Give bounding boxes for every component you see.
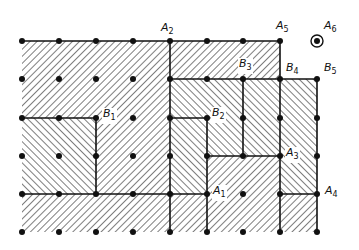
- label-B1: B1: [102, 108, 117, 124]
- lattice-point: [277, 229, 283, 235]
- lattice-point: [204, 115, 210, 121]
- lattice-point: [56, 38, 62, 44]
- lattice-point: [240, 229, 246, 235]
- lattice-point: [130, 76, 136, 82]
- label-A3: A3: [285, 147, 300, 163]
- label-A6: A6: [323, 20, 338, 36]
- lattice-point: [314, 229, 320, 235]
- lattice-point: [56, 76, 62, 82]
- label-B3: B3: [238, 58, 253, 74]
- lattice-point: [130, 153, 136, 159]
- lattice-point: [314, 191, 320, 197]
- lattice-point: [240, 38, 246, 44]
- lattice-point: [56, 115, 62, 121]
- label-A1: A1: [212, 185, 227, 201]
- region-bottom-right: [280, 194, 317, 232]
- lattice-point: [240, 191, 246, 197]
- lattice-point: [240, 115, 246, 121]
- lattice-point: [19, 76, 25, 82]
- lattice-point: [130, 38, 136, 44]
- lattice-point: [314, 115, 320, 121]
- lattice-point: [167, 153, 173, 159]
- lattice-point: [19, 38, 25, 44]
- lattice-diagram: [0, 0, 359, 250]
- lattice-point: [56, 229, 62, 235]
- lattice-point: [167, 38, 173, 44]
- lattice-point: [204, 229, 210, 235]
- label-B2: B2: [211, 107, 226, 123]
- lattice-point: [93, 229, 99, 235]
- label-B4: B4: [285, 62, 300, 78]
- lattice-point: [56, 191, 62, 197]
- region-top-right-B3: [170, 41, 280, 79]
- lattice-point: [240, 76, 246, 82]
- lattice-point: [167, 229, 173, 235]
- lattice-point: [93, 76, 99, 82]
- label-A2: A2: [160, 22, 175, 38]
- lattice-point: [277, 191, 283, 197]
- lattice-point: [277, 153, 283, 159]
- lattice-point: [130, 115, 136, 121]
- lattice-point: [277, 115, 283, 121]
- lattice-point: [204, 191, 210, 197]
- lattice-point: [93, 115, 99, 121]
- lattice-point: [314, 153, 320, 159]
- lattice-point: [277, 38, 283, 44]
- label-A5: A5: [275, 20, 290, 36]
- lattice-point: [93, 191, 99, 197]
- lattice-point: [314, 76, 320, 82]
- lattice-point: [167, 115, 173, 121]
- circled-dot: [314, 38, 320, 44]
- lattice-point: [19, 229, 25, 235]
- label-A4: A4: [324, 185, 339, 201]
- region-right-col-6: [243, 79, 280, 156]
- lattice-point: [19, 115, 25, 121]
- lattice-point: [204, 153, 210, 159]
- lattice-point: [167, 191, 173, 197]
- lattice-point: [240, 153, 246, 159]
- lattice-point: [93, 38, 99, 44]
- circled-point-A6: [311, 35, 323, 47]
- lattice-point: [56, 153, 62, 159]
- lattice-point: [19, 191, 25, 197]
- lattice-point: [130, 191, 136, 197]
- label-B5: B5: [323, 62, 338, 78]
- lattice-point: [167, 76, 173, 82]
- lattice-point: [277, 76, 283, 82]
- lattice-point: [204, 38, 210, 44]
- region-right-col-7: [280, 79, 317, 194]
- lattice-point: [19, 153, 25, 159]
- lattice-point: [130, 229, 136, 235]
- lattice-point: [93, 153, 99, 159]
- lattice-point: [204, 76, 210, 82]
